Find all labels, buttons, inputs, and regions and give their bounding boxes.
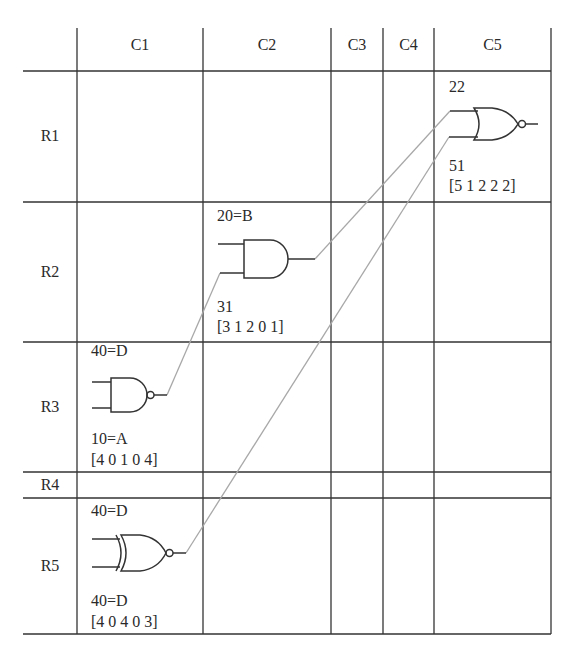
nand-gate-vector: [4 0 1 0 4] xyxy=(91,451,158,469)
and-gate-bottom-label: 31 xyxy=(217,298,233,316)
nand-gate-icon xyxy=(92,378,167,412)
wire-nand-to-and xyxy=(167,273,220,395)
column-header-c4: C4 xyxy=(383,36,434,54)
nand-gate-top-label: 40=D xyxy=(91,342,128,360)
and-gate-top-label: 20=B xyxy=(217,207,253,225)
nor-gate-bottom-label: 51 xyxy=(449,157,465,175)
row-header-r5: R5 xyxy=(20,557,80,575)
row-header-r2: R2 xyxy=(20,263,80,281)
grid-lines xyxy=(23,28,551,634)
column-header-c2: C2 xyxy=(203,36,331,54)
row-header-r1: R1 xyxy=(20,127,80,145)
nand-gate-bottom-label: 10=A xyxy=(91,430,128,448)
column-header-c1: C1 xyxy=(77,36,203,54)
column-header-c3: C3 xyxy=(331,36,383,54)
xnor-gate-vector: [4 0 4 0 3] xyxy=(91,613,158,631)
nor-gate-icon xyxy=(449,108,538,140)
column-header-c5: C5 xyxy=(434,36,551,54)
and-gate-icon xyxy=(218,240,315,278)
row-header-r4: R4 xyxy=(20,476,80,494)
xnor-gate-bottom-label: 40=D xyxy=(91,592,128,610)
circuit-grid-diagram: C1 C2 C3 C4 C5 R1 R2 R3 R4 R5 22 51 [5 1… xyxy=(0,0,576,654)
xnor-gate-top-label: 40=D xyxy=(91,502,128,520)
row-header-r3: R3 xyxy=(20,398,80,416)
and-gate-vector: [3 1 2 0 1] xyxy=(217,318,284,336)
wire-xnor-to-nor xyxy=(186,137,449,553)
grid-and-wires xyxy=(0,0,576,654)
xnor-gate-icon xyxy=(92,535,186,571)
wires xyxy=(167,111,450,553)
nor-gate-vector: [5 1 2 2 2] xyxy=(449,177,516,195)
nor-gate-top-label: 22 xyxy=(449,78,465,96)
